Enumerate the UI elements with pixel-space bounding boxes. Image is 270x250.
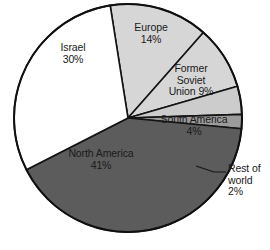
pie-chart: Europe 14% Former Soviet Union 9% South …	[0, 0, 270, 250]
pie-chart-svg	[0, 0, 270, 250]
pie-slices	[14, 4, 242, 232]
